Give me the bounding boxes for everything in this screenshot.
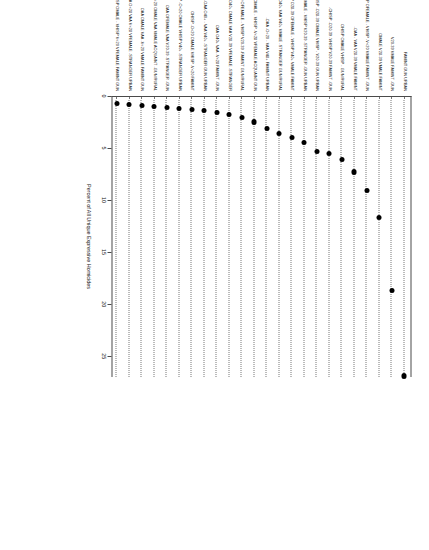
plot-panel	[111, 96, 411, 377]
data-point[interactable]	[339, 157, 344, 162]
row-guide-line	[353, 97, 354, 377]
category-label: OAA OMALE VAA -V<20 VMALE FAMINT GUN	[140, 8, 144, 91]
category-label: -CHISP -O20-39 -VHISP V20-39 FAMINT -GUN	[328, 7, 332, 91]
data-point[interactable]	[314, 149, 319, 154]
row-guide-line	[328, 97, 329, 377]
row-guide-line	[140, 97, 141, 377]
category-label: -CHISP OFEMALE - VHISP -V<20 VMALE FAMIN…	[365, 0, 369, 91]
data-point[interactable]	[239, 115, 244, 120]
data-point[interactable]	[214, 110, 219, 115]
data-point[interactable]	[139, 103, 144, 108]
category-label: FAMINT GUN URBAN	[403, 52, 407, 91]
x-axis-tick	[107, 304, 111, 305]
data-point[interactable]	[189, 107, 194, 112]
category-label: OAA O40+ VAA -V<20 FAMINT -GUN	[215, 25, 219, 91]
row-guide-line	[340, 97, 341, 377]
x-axis-tick-label: 5	[100, 147, 106, 150]
row-guide-line	[278, 97, 279, 377]
row-guide-line	[153, 97, 154, 377]
data-point[interactable]	[389, 288, 394, 293]
category-label: -OHISP OMALE - VHISP V<20 VFEMALE FAMINT…	[115, 0, 119, 91]
category-label: -OAA O40+ - VAA V40+ -STRANGER GUN URBAN	[203, 0, 207, 91]
data-point[interactable]	[376, 215, 381, 220]
row-guide-line	[115, 97, 116, 377]
category-label: OAA O40+ VAA V40+ VMALE -STRANGER GUN RU…	[278, 0, 282, 91]
category-label: OMALE V20-39 VMALE FAMINT	[378, 33, 382, 91]
category-label: -CHISP OFEMALE - VHISP V20-39 -STRANGER …	[303, 0, 307, 91]
data-point[interactable]	[164, 105, 169, 110]
data-point[interactable]	[126, 102, 131, 107]
row-guide-line	[365, 97, 366, 377]
category-label: OAA O<20 VAA V<20 VFEMALE -STRANGER URBA…	[128, 0, 132, 91]
data-point[interactable]	[289, 135, 294, 140]
data-point[interactable]	[151, 104, 156, 109]
row-guide-line	[378, 97, 379, 377]
data-point[interactable]	[401, 373, 406, 378]
row-guide-line	[403, 97, 404, 377]
category-label: OHISP -O<20 OMALE VHISP -V<20 FAMINT	[190, 11, 194, 91]
x-axis-tick	[107, 148, 111, 149]
category-label: OAA O40+ OMALE VAA V20-39 VFEMALE -STRAN…	[228, 0, 232, 91]
x-axis-tick	[107, 96, 111, 97]
data-point[interactable]	[364, 188, 369, 193]
data-point[interactable]	[176, 106, 181, 111]
category-label: -OAA - VAA V20-39 VMALE FAMINT	[353, 27, 357, 91]
dot-plot-figure: FAMINT GUN URBANV20-39 VMALE FAMINT -GUN…	[0, 0, 429, 550]
category-axis-labels: FAMINT GUN URBANV20-39 VMALE FAMINT -GUN…	[111, 0, 411, 94]
category-label: -OAA -O<20 - VAA V40+ FAMINT URBAN	[265, 17, 269, 91]
data-point[interactable]	[326, 151, 331, 156]
row-guide-line	[240, 97, 241, 377]
row-guide-line	[178, 97, 179, 377]
x-axis-tick-label: 0	[100, 95, 106, 98]
x-axis-tick	[107, 356, 111, 357]
category-label: V20-39 VMALE FAMINT -GUN	[390, 37, 394, 91]
row-guide-line	[253, 97, 254, 377]
category-label: -CHISP O40+ OMALE - VHISP -V<20 VFEMALE …	[253, 0, 257, 91]
x-axis-tick	[107, 200, 111, 201]
category-label: OHISP OMALE VHISP - GUN RURAL	[340, 24, 344, 91]
row-guide-line	[203, 97, 204, 377]
x-axis-tick-label: 20	[100, 301, 106, 307]
data-point[interactable]	[264, 126, 269, 131]
category-label: OAA O<20 OMALE VAA VMALE ACQUAINT -GUN R…	[153, 0, 157, 91]
category-label: OHISP -O<20 OMALE VHISP V40+ -STRANGER U…	[178, 0, 182, 91]
plot-rows	[112, 97, 410, 377]
x-axis-title: Percent of All Unique Expressive Homicid…	[85, 96, 91, 377]
data-point[interactable]	[201, 108, 206, 113]
data-point[interactable]	[251, 119, 256, 124]
category-label: -CHISP -O20-39 OMALE VHISP - V20-39 GUN …	[315, 0, 319, 91]
category-label: -CHISP O20-39 OFEMALE - VHISP V20-39 -FA…	[240, 0, 244, 91]
rotated-figure-container: FAMINT GUN URBANV20-39 VMALE FAMINT -GUN…	[0, 0, 429, 550]
row-guide-line	[228, 97, 229, 377]
category-label: OAA OFEMALE VAA V20-39 -STRANGER -GUN	[165, 5, 169, 91]
data-point[interactable]	[114, 101, 119, 106]
data-point[interactable]	[351, 169, 356, 174]
row-guide-line	[265, 97, 266, 377]
x-axis-tick	[107, 252, 111, 253]
row-guide-line	[128, 97, 129, 377]
row-guide-line	[303, 97, 304, 377]
data-point[interactable]	[301, 140, 306, 145]
x-axis-tick-label: 25	[100, 353, 106, 359]
row-guide-line	[165, 97, 166, 377]
row-guide-line	[390, 97, 391, 377]
data-point[interactable]	[276, 131, 281, 136]
x-axis-tick-label: 15	[100, 249, 106, 255]
x-axis-tick-label: 10	[100, 197, 106, 203]
row-guide-line	[315, 97, 316, 377]
row-guide-line	[215, 97, 216, 377]
data-point[interactable]	[226, 112, 231, 117]
row-guide-line	[190, 97, 191, 377]
category-label: -CHISP O20-39 OFEMALE - VHISP V40+ VMALE…	[290, 0, 294, 91]
